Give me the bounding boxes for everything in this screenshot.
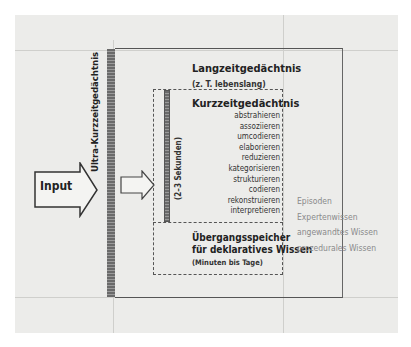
process-item: rekonstruieren bbox=[228, 196, 280, 207]
process-item: assoziieren bbox=[228, 122, 280, 133]
process-item: reduzieren bbox=[228, 153, 280, 164]
process-item: codieren bbox=[228, 185, 280, 196]
process-item: interpretieren bbox=[228, 206, 280, 217]
ultra-short-term-bar bbox=[107, 49, 115, 297]
transition-subtitle: (Minuten bis Tage) bbox=[192, 258, 263, 267]
content-item: prozedurales Wissen bbox=[297, 241, 378, 257]
long-term-subtitle: (z. T. lebenslang) bbox=[192, 79, 266, 89]
process-item: kategorisieren bbox=[228, 164, 280, 175]
process-item: umcodieren bbox=[228, 132, 280, 143]
short-term-duration: (2–3 Sekunden) bbox=[174, 120, 186, 200]
process-item: elaborieren bbox=[228, 143, 280, 154]
ultra-short-term-label: Ultra-Kurzzeitgedächtnis bbox=[89, 52, 103, 172]
process-list: abstrahieren assoziieren umcodieren elab… bbox=[228, 111, 280, 217]
input-label: Input bbox=[40, 179, 72, 193]
process-item: abstrahieren bbox=[228, 111, 280, 122]
content-item: Expertenwissen bbox=[297, 210, 378, 226]
transition-title: Übergangsspeicher für deklaratives Wisse… bbox=[192, 232, 312, 256]
long-term-contents: Episoden Expertenwissen angewandtes Wiss… bbox=[297, 194, 378, 256]
short-term-separator bbox=[153, 222, 283, 223]
short-term-title: Kurzzeitgedächtnis bbox=[192, 97, 299, 110]
process-item: strukturieren bbox=[228, 175, 280, 186]
short-term-bar bbox=[164, 90, 170, 222]
long-term-title: Langzeitgedächtnis bbox=[192, 62, 301, 75]
content-item: Episoden bbox=[297, 194, 378, 210]
arrow-right-icon bbox=[120, 170, 156, 200]
content-item: angewandtes Wissen bbox=[297, 225, 378, 241]
